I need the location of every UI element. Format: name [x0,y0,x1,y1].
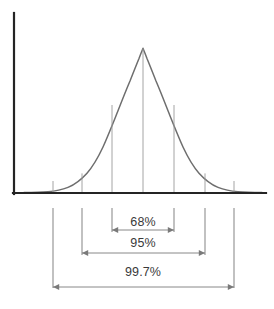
arrow-head-left [82,250,88,256]
arrow-head-left [112,227,118,233]
band-label-997: 99.7% [122,266,164,279]
arrow-head-right [168,227,174,233]
band-label-68: 68% [127,216,158,229]
axes-group [13,13,266,194]
arrow-head-left [53,284,59,290]
band-label-95: 95% [127,237,158,250]
arrow-head-right [199,250,205,256]
curve-gridlines-group [53,49,234,193]
normal-distribution-figure: 68% 95% 99.7% [0,0,274,309]
arrow-head-right [228,284,234,290]
figure-canvas [0,0,274,309]
